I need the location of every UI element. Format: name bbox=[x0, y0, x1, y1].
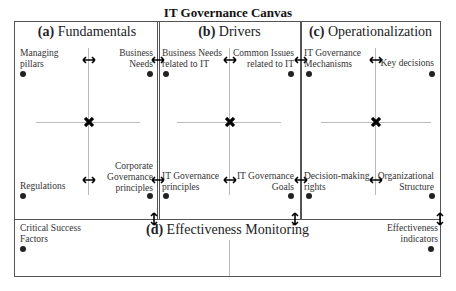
marker-dot bbox=[306, 193, 312, 199]
marker-dot bbox=[20, 71, 26, 77]
double-arrow-horizontal-icon bbox=[82, 176, 96, 184]
marker-dot bbox=[147, 71, 153, 77]
marker-dot bbox=[20, 193, 26, 199]
label-key-decisions: Key decisions bbox=[380, 58, 434, 69]
marker-dot bbox=[306, 71, 312, 77]
cross-icon bbox=[84, 117, 94, 127]
label-regulations: Regulations bbox=[20, 181, 65, 192]
label-managing-pillars: Managing pillars bbox=[20, 48, 59, 70]
double-arrow-vertical-icon bbox=[291, 212, 299, 226]
panel-title: (b) Drivers bbox=[158, 24, 301, 40]
label-critical-success-factors: Critical Success Factors bbox=[20, 223, 81, 245]
cross-icon bbox=[225, 117, 235, 127]
marker-dot bbox=[288, 193, 294, 199]
panel-title: (a) Fundamentals bbox=[15, 24, 159, 40]
label-effectiveness-indicators: Effectiveness indicators bbox=[387, 223, 438, 245]
marker-dot bbox=[147, 193, 153, 199]
marker-dot bbox=[429, 71, 435, 77]
label-decision-making-rights: Decision-making rights bbox=[304, 171, 369, 193]
panel-title: (c) Operationalization bbox=[301, 24, 440, 40]
divider-vertical bbox=[229, 240, 230, 276]
double-arrow-horizontal-icon bbox=[82, 56, 96, 64]
label-it-governance-goals: IT Governance Goals bbox=[237, 171, 294, 193]
marker-dot bbox=[428, 246, 434, 252]
marker-dot bbox=[20, 246, 26, 252]
label-organizational-structure: Organizational Structure bbox=[378, 171, 434, 193]
marker-dot bbox=[288, 71, 294, 77]
double-arrow-horizontal-icon bbox=[223, 176, 237, 184]
cross-icon bbox=[371, 117, 381, 127]
double-arrow-vertical-icon bbox=[150, 212, 158, 226]
label-corporate-governance-principles: Corporate Governance principles bbox=[107, 161, 153, 194]
label-business-needs: Business Needs bbox=[119, 48, 153, 70]
marker-dot bbox=[163, 71, 169, 77]
marker-dot bbox=[163, 193, 169, 199]
marker-dot bbox=[429, 193, 435, 199]
label-it-governance-mechanisms: IT Governance Mechanisms bbox=[304, 48, 361, 70]
label-it-governance-principles: IT Governance principles bbox=[162, 171, 219, 193]
canvas-title: IT Governance Canvas bbox=[0, 5, 456, 21]
label-common-issues-related-to-it: Common Issues related to IT bbox=[233, 48, 294, 70]
label-business-needs-related-to-it: Business Needs related to IT bbox=[162, 48, 222, 70]
